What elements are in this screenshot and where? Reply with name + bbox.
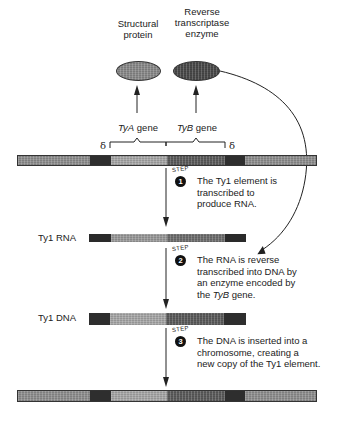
dna-tyb-region <box>166 313 224 325</box>
step2-line1: The RNA is reverse <box>197 254 347 266</box>
dna-tya-region <box>110 313 166 325</box>
delta-right-region <box>225 156 245 165</box>
rna-tya-region <box>111 234 167 242</box>
step2-line4-gene: TyB <box>213 289 229 300</box>
tyb-gene-name: TyB <box>177 122 193 133</box>
flank-left-bottom <box>18 391 90 401</box>
ty1-dna-label: Ty1 DNA <box>38 312 76 323</box>
step1-down-arrow <box>163 168 169 227</box>
step2-line2: transcribed into DNA by <box>197 266 347 278</box>
dna-left-delta <box>89 313 110 325</box>
chromosome-top <box>17 155 317 166</box>
step3-line1: The DNA is inserted into a <box>197 335 347 347</box>
gene-braces <box>110 138 225 148</box>
step3-line3: new copy of the Ty1 element. <box>197 358 347 370</box>
tya-gene-suffix: gene <box>134 122 158 133</box>
delta-right-label: δ <box>229 140 235 151</box>
tya-up-arrow <box>134 85 140 113</box>
step3-line2: chromosome, creating a <box>197 347 347 359</box>
step3-badge: 3 <box>175 336 186 347</box>
step1-line2: transcribed to <box>197 187 337 199</box>
rna-right-end <box>225 234 246 242</box>
ty1-dna-bar <box>89 313 246 325</box>
tyb-region <box>167 156 225 165</box>
step1-line1: The Ty1 element is <box>197 175 337 187</box>
chromosome-bottom <box>17 390 317 402</box>
tya-region <box>111 156 167 165</box>
step2-badge: 2 <box>175 255 186 266</box>
flank-left <box>18 156 90 165</box>
step2-line4-prefix: the <box>197 289 213 300</box>
tya-gene-name: TyA <box>118 122 134 133</box>
step3-down-arrow <box>163 328 169 387</box>
tyb-up-arrow <box>193 85 199 113</box>
flank-right-bottom <box>245 391 317 401</box>
rna-left-end <box>89 234 111 242</box>
tyb-region-bottom <box>167 391 225 401</box>
dna-right-delta <box>224 313 246 325</box>
step2-line4-suffix: gene. <box>229 289 255 300</box>
tyb-gene-suffix: gene <box>193 122 217 133</box>
ty1-rna-label: Ty1 RNA <box>38 232 76 243</box>
delta-left-region-bottom <box>90 391 111 401</box>
step2-line3: an enzyme encoded by <box>197 277 347 289</box>
step2-line4: the TyB gene. <box>197 289 347 301</box>
tya-gene-label: TyA gene <box>118 122 168 133</box>
tya-region-bottom <box>111 391 167 401</box>
rna-tyb-region <box>167 234 225 242</box>
delta-left-region <box>90 156 111 165</box>
tyb-gene-label: TyB gene <box>177 122 227 133</box>
step1-line3: produce RNA. <box>197 198 337 210</box>
step1-badge: 1 <box>175 176 186 187</box>
step3-text: The DNA is inserted into a chromosome, c… <box>197 335 347 370</box>
step1-text: The Ty1 element is transcribed to produc… <box>197 175 337 210</box>
step2-text: The RNA is reverse transcribed into DNA … <box>197 254 347 300</box>
delta-left-label: δ <box>100 140 106 151</box>
step2-down-arrow <box>163 248 169 309</box>
flank-right <box>245 156 317 165</box>
delta-right-region-bottom <box>225 391 245 401</box>
ty1-rna-bar <box>89 234 246 242</box>
